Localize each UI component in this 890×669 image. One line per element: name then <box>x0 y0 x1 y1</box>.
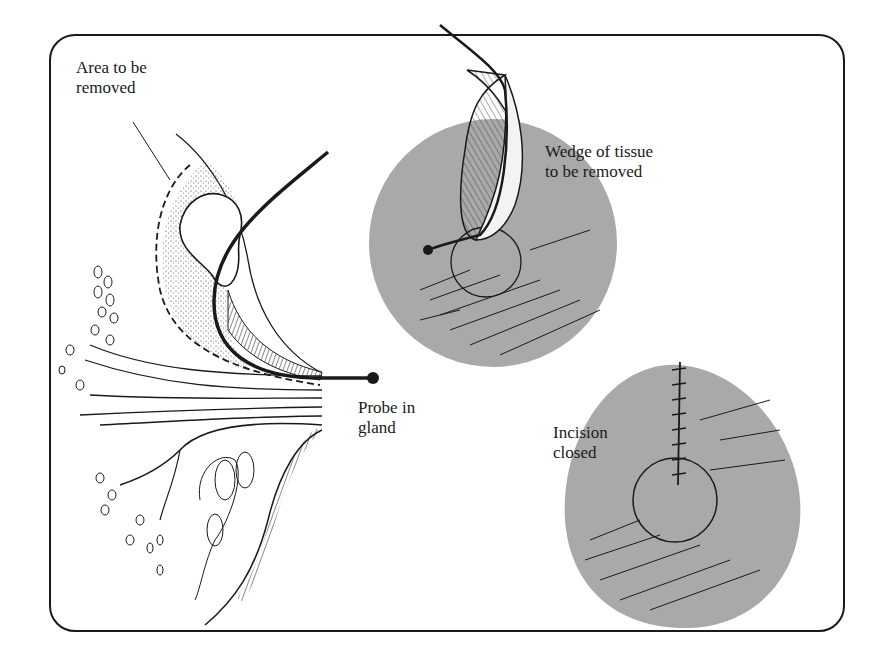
cross-section-drawing <box>59 122 379 625</box>
wedge-excision-drawing <box>369 25 617 367</box>
closure-drawing <box>565 362 801 628</box>
label-probe-in-gland: Probe in gland <box>358 398 415 438</box>
illustration <box>0 0 890 669</box>
label-incision-closed: Incision closed <box>553 423 608 463</box>
label-wedge-of-tissue: Wedge of tissue to be removed <box>545 142 653 182</box>
label-area-to-be-removed: Area to be removed <box>76 58 147 98</box>
